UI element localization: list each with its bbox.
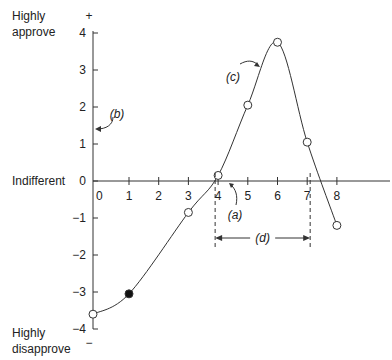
y-tick-label: 3	[79, 63, 86, 77]
x-tick-label: 8	[334, 189, 341, 203]
x-tick-label: 2	[155, 189, 162, 203]
annotation-b-label: (b)	[110, 107, 125, 121]
data-point	[184, 208, 192, 216]
curve-group	[89, 38, 341, 318]
highly-approve-label: Highly	[12, 9, 45, 23]
data-point	[89, 310, 97, 318]
b-arrow-head	[95, 126, 101, 132]
annotation-c-label: (c)	[226, 70, 240, 84]
data-point	[333, 221, 341, 229]
highly-approve-label: approve	[12, 25, 56, 39]
plus-sign: +	[85, 9, 92, 23]
data-point	[244, 101, 252, 109]
x-tick-label: 4	[215, 189, 222, 203]
data-point	[274, 38, 282, 46]
x-tick-label: 6	[274, 189, 281, 203]
y-tick-label: 1	[79, 137, 86, 151]
annotation-d-label: (d)	[255, 231, 270, 245]
y-tick-label: 4	[79, 26, 86, 40]
data-point	[303, 138, 311, 146]
x-tick-label: 5	[244, 189, 251, 203]
minus-sign: −	[85, 336, 92, 350]
y-tick-label: 2	[79, 100, 86, 114]
indifferent-label: Indifferent	[12, 174, 66, 188]
data-point	[125, 290, 133, 298]
y-tick-label: 0	[79, 174, 86, 188]
y-tick-label: −4	[72, 322, 86, 336]
y-tick-label: −1	[72, 211, 86, 225]
y-tick-label: −2	[72, 248, 86, 262]
d-arrow-left-head	[215, 235, 222, 241]
x-tick-label: 7	[304, 189, 311, 203]
x-tick-label: 0	[96, 189, 103, 203]
highly-disapprove-label: disapprove	[12, 342, 71, 356]
highly-disapprove-label: Highly	[12, 326, 45, 340]
x-tick-label: 1	[126, 189, 133, 203]
labels: 43210−1−2−3−4012345678+−HighlyapproveInd…	[12, 9, 341, 356]
attitude-chart: (d)(a)(b)(c) 43210−1−2−3−4012345678+−Hig…	[0, 0, 392, 360]
annotations: (d)(a)(b)(c)	[95, 61, 310, 250]
d-arrow-right-head	[303, 235, 310, 241]
annotation-a-label: (a)	[228, 208, 243, 222]
y-tick-label: −3	[72, 285, 86, 299]
x-tick-label: 3	[185, 189, 192, 203]
